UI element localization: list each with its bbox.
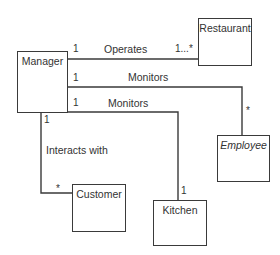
operates-from-multiplicity: 1 (73, 44, 79, 54)
class-restaurant[interactable]: Restaurant (198, 18, 252, 66)
class-name: Employee (218, 139, 269, 151)
monitors-employee-label: Monitors (128, 72, 168, 83)
class-customer[interactable]: Customer (72, 184, 126, 232)
class-name: Manager (18, 55, 67, 67)
class-name: Customer (73, 188, 125, 200)
monitors-kitchen-from-multiplicity: 1 (73, 98, 79, 108)
class-name: Restaurant (199, 22, 251, 34)
class-manager[interactable]: Manager (17, 51, 68, 113)
interacts-from-multiplicity: 1 (44, 115, 50, 125)
operates-to-multiplicity: 1...* (175, 44, 193, 54)
class-employee[interactable]: Employee (217, 135, 270, 182)
interacts-label: Interacts with (46, 145, 108, 156)
interacts-to-multiplicity: * (56, 184, 60, 194)
monitors-employee-from-multiplicity: 1 (73, 73, 79, 83)
monitors-kitchen-label: Monitors (108, 98, 148, 109)
operates-label: Operates (104, 44, 147, 55)
monitors-kitchen-to-multiplicity: 1 (181, 186, 187, 196)
monitors-employee-line (67, 87, 242, 135)
class-name: Kitchen (154, 204, 206, 216)
class-kitchen[interactable]: Kitchen (153, 200, 207, 246)
monitors-employee-to-multiplicity: * (246, 106, 250, 116)
